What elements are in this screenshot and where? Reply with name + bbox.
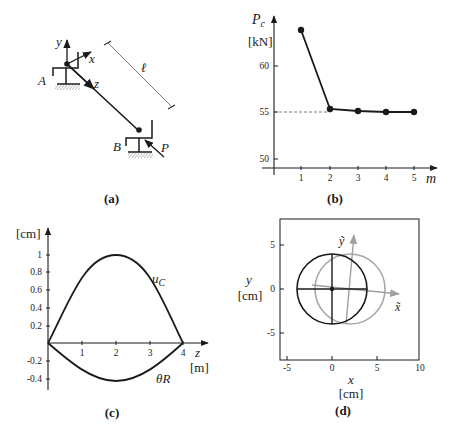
ground-hatch-b	[128, 153, 153, 158]
x-tick-label: 0	[330, 363, 335, 373]
caption-d: (d)	[335, 403, 351, 418]
axis-y-label: y	[54, 34, 62, 49]
theta-r-curve-label: θR	[156, 371, 170, 386]
x-tick-label: 5	[375, 363, 380, 373]
caption-b: (b)	[327, 191, 343, 206]
y-tick-label: 0.6	[30, 285, 42, 295]
y-tick-label: 0	[270, 284, 275, 294]
x-tick-label: 1	[80, 348, 85, 358]
pc-series-line	[301, 30, 414, 112]
y-tick-label: -5	[267, 328, 275, 338]
y-axis-label: Pc	[251, 12, 266, 29]
x-tick-label: 5	[412, 173, 417, 183]
x-tick-label: 4	[384, 173, 389, 183]
y-axis-unit: [cm]	[16, 226, 41, 241]
y-tick-label: 0.2	[30, 321, 42, 331]
x-tick-label: 4	[181, 348, 186, 358]
uc-curve	[48, 255, 183, 343]
x-axis-unit: [cm]	[339, 386, 364, 401]
x-axis-label: x	[347, 372, 354, 387]
panel-b-chart: 60 55 50 1 2 3 4 5 Pc [kN] m (b)	[248, 12, 437, 206]
support-a-label: A	[37, 73, 46, 88]
x-axis-label: z	[194, 345, 200, 360]
x-axis-arrow	[67, 52, 91, 64]
x-tick-label: 2	[114, 348, 119, 358]
axis-x-label: x	[88, 51, 95, 66]
support-b	[126, 120, 152, 152]
y-axis-unit: [cm]	[238, 288, 263, 303]
node-a	[64, 61, 70, 67]
y-tick-label: -0.4	[27, 374, 42, 384]
panel-a-diagram: y x z A B P ℓ (a)	[37, 34, 175, 206]
figure: y x z A B P ℓ (a)	[0, 0, 449, 429]
panel-c-chart: 1 0.8 0.6 0.4 0.2 -0.2 -0.4 1 2 3 4 [cm]…	[16, 226, 209, 420]
panel-d-chart: -5 0 5 10 5 0 -5 y [cm] x [cm] x̃ ỹ (d)	[238, 219, 425, 418]
rotated-y-axis	[346, 235, 354, 324]
y-axis-unit: [kN]	[248, 34, 273, 49]
x-tick-label: 3	[148, 348, 153, 358]
x-tick-label: 1	[299, 173, 304, 183]
x-tick-label: -5	[283, 363, 291, 373]
y-tick-label: 60	[260, 61, 270, 71]
rotated-x-label: x̃	[394, 300, 401, 314]
x-tick-label: 3	[356, 173, 361, 183]
y-tick-label: 5	[270, 240, 275, 250]
caption-c: (c)	[105, 405, 119, 420]
x-tick-label: 2	[328, 173, 333, 183]
axis-z-label: z	[93, 76, 99, 91]
x-axis-label: m	[426, 171, 436, 186]
y-tick-label: 55	[260, 107, 270, 117]
y-tick-label: 50	[260, 154, 270, 164]
y-axis-label: y	[244, 272, 252, 287]
y-tick-label: 1	[37, 250, 42, 260]
dim-tick-bottom	[168, 105, 175, 109]
load-label: P	[160, 140, 169, 155]
x-axis-unit: [m]	[190, 360, 209, 375]
y-tick-label: -0.2	[27, 356, 42, 366]
node-b	[136, 127, 142, 133]
x-tick-label: 10	[415, 363, 425, 373]
support-b-label: B	[113, 139, 121, 154]
section-center	[330, 287, 334, 291]
uc-curve-label: uC	[152, 271, 166, 288]
y-tick-label: 0.4	[30, 303, 42, 313]
length-label: ℓ	[141, 60, 147, 75]
rotated-y-label: ỹ	[338, 234, 345, 248]
ground-hatch-a	[55, 85, 80, 90]
y-tick-label: 0.8	[30, 267, 42, 277]
caption-a: (a)	[104, 191, 119, 206]
length-dimension-line	[108, 43, 172, 107]
